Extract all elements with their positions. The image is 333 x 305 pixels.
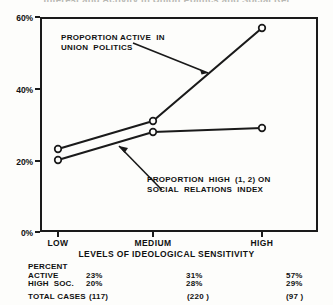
table-row-active: ACTIVE 23% 31% 57%: [4, 271, 329, 280]
y-tick-label-20: 20%: [3, 157, 33, 167]
table-row-high-soc: HIGH SOC. 20% 28% 29%: [4, 279, 329, 292]
x-axis-title: LEVELS OF IDEOLOGICAL SENSITIVITY: [0, 249, 333, 259]
table-cell-high-soc-high: 29%: [286, 279, 303, 288]
data-point-active-low: [55, 146, 62, 153]
x-tick-mark-medium: [152, 232, 154, 237]
annotation-social-relations-line1: PROPORTION HIGH (1, 2) ON: [147, 175, 271, 184]
annotation-social-relations-line2: SOCIAL RELATIONS INDEX: [147, 185, 263, 194]
annotation-union-politics-line2: UNION POLITICS: [61, 43, 133, 52]
table-cell-high-soc-low: 20%: [86, 279, 103, 288]
y-tick-label-0: 0%: [3, 228, 33, 238]
table-row-header: PERCENT: [4, 262, 329, 271]
data-point-social-low: [55, 157, 62, 164]
data-point-social-medium: [150, 129, 157, 136]
table-cell-total-medium: (220 ): [187, 292, 209, 301]
y-tick-label-60: 60%: [3, 13, 33, 23]
data-point-social-high: [259, 125, 266, 132]
table-row-label-total-cases: TOTAL CASES: [28, 292, 86, 301]
data-point-active-medium: [150, 118, 157, 125]
annotation-social-relations: PROPORTION HIGH (1, 2) ON SOCIAL RELATIO…: [147, 175, 271, 195]
annotation-union-politics: PROPORTION ACTIVE IN UNION POLITICS: [61, 33, 165, 53]
summary-table: PERCENT ACTIVE 23% 31% 57% HIGH SOC. 20%…: [4, 262, 329, 301]
x-tick-label-medium: MEDIUM: [118, 238, 188, 248]
table-row-label-high-soc: HIGH SOC.: [28, 279, 74, 288]
table-cell-high-soc-medium: 28%: [186, 279, 203, 288]
table-cell-total-low: (117): [89, 292, 108, 301]
annotation-union-politics-line1: PROPORTION ACTIVE IN: [61, 33, 165, 42]
table-row-total-cases: TOTAL CASES (117) (220 ) (97 ): [4, 292, 329, 301]
y-tick-label-40: 40%: [3, 85, 33, 95]
figure-title: Interest and Activity in Union Politics …: [0, 0, 333, 2]
x-tick-mark-low: [57, 232, 59, 237]
table-cell-total-high: (97 ): [286, 292, 303, 301]
figure-container: Interest and Activity in Union Politics …: [0, 0, 333, 305]
series-line-social-relations: [58, 128, 262, 160]
x-tick-mark-high: [261, 232, 263, 237]
data-point-active-high: [259, 25, 266, 32]
x-tick-label-high: HIGH: [227, 238, 297, 248]
x-tick-label-low: LOW: [23, 238, 93, 248]
